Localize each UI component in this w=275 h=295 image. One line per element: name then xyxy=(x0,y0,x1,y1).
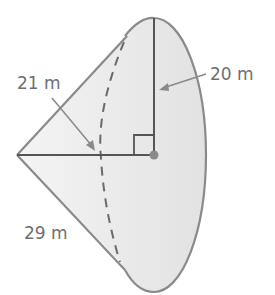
label-radius: 20 m xyxy=(210,64,254,84)
cone-diagram: 20 m 21 m 29 m xyxy=(0,0,275,295)
center-dot xyxy=(150,151,159,160)
label-height: 21 m xyxy=(17,73,61,93)
label-slant: 29 m xyxy=(24,223,68,243)
